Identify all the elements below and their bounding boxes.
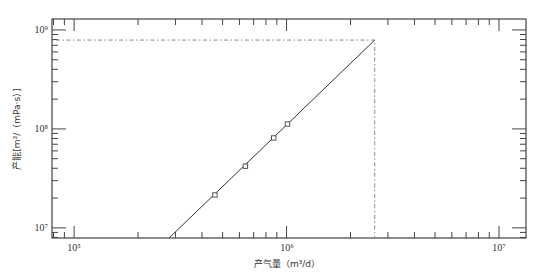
data-point-marker: [213, 193, 217, 197]
y-tick-label-1e9: 10⁹: [35, 24, 49, 35]
x-tick-label-1e5: 10⁵: [67, 242, 81, 253]
y-tick-label-1e8: 10⁸: [35, 123, 49, 134]
x-tick-label-1e6: 10⁶: [280, 242, 294, 253]
data-point-marker: [271, 136, 275, 140]
plot-frame: [52, 19, 526, 238]
axis-ticks: [52, 19, 526, 238]
x-tick-label-1e7: 10⁷: [492, 242, 506, 253]
x-axis-title: 产气量（m³/d）: [254, 258, 320, 269]
y-tick-label-1e7: 10⁷: [35, 222, 49, 233]
data-point-marker: [285, 122, 289, 126]
log-log-chart: 10⁵ 10⁶ 10⁷ 10⁷ 10⁸ 10⁹ 产气量（m³/d） 产能[m²/…: [0, 0, 535, 280]
data-point-marker: [243, 164, 247, 168]
reference-dotted-line: [52, 40, 375, 238]
y-axis-title: 产能[m²/（mPa·s）]: [11, 88, 22, 169]
